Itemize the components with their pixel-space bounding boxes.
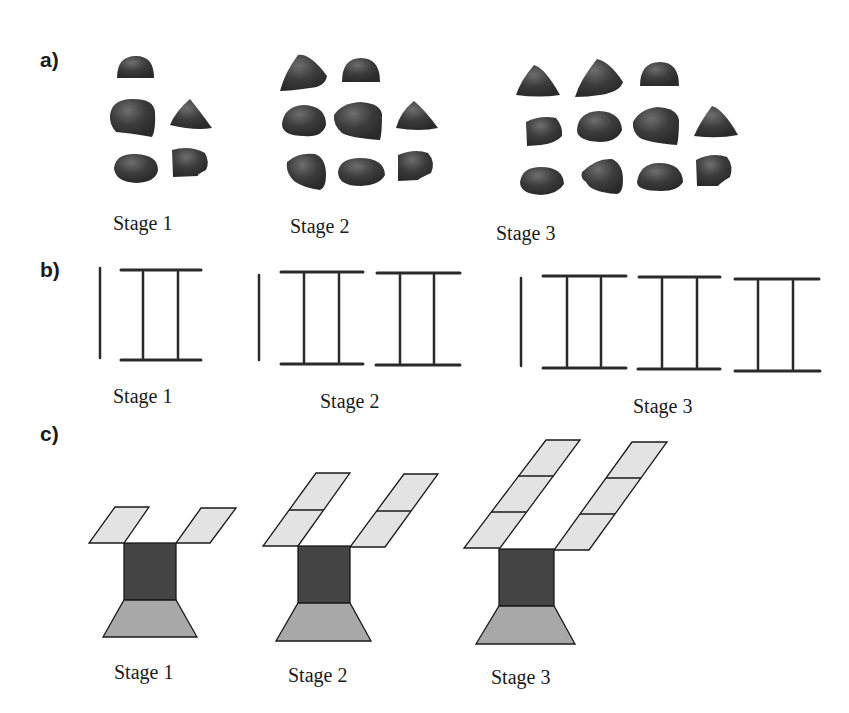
panel-b-stage-2-label: Stage 2 xyxy=(320,390,379,413)
left-arm xyxy=(464,440,580,548)
panel-a-stage-3-label: Stage 3 xyxy=(496,222,555,245)
pattern-figure xyxy=(0,0,849,713)
dark-box xyxy=(124,543,176,600)
stone xyxy=(398,151,433,181)
stage-3-stones xyxy=(516,59,738,195)
panel-a-stage-1-label: Stage 1 xyxy=(113,212,172,235)
panel-b-stage-1-label: Stage 1 xyxy=(113,385,172,408)
stone xyxy=(282,105,326,136)
panel-b-label: b) xyxy=(40,258,60,282)
stone xyxy=(516,65,560,97)
panel-c-label: c) xyxy=(40,422,59,446)
panel-b-frames xyxy=(100,268,820,371)
panel-c-stage-3-label: Stage 3 xyxy=(491,666,550,689)
right-arm xyxy=(554,442,667,550)
stone xyxy=(342,58,380,82)
stone xyxy=(172,148,208,177)
stage-2-stones xyxy=(280,55,438,190)
stone xyxy=(110,99,155,137)
panel-c-stage-1-label: Stage 1 xyxy=(114,661,173,684)
base-trapezoid xyxy=(276,603,371,641)
stone xyxy=(577,111,622,142)
stone xyxy=(637,163,683,191)
stage-2-stand xyxy=(263,473,438,641)
panel-a-stones xyxy=(110,55,738,195)
stone xyxy=(170,99,212,129)
dark-box xyxy=(499,549,554,606)
stone xyxy=(280,55,327,91)
stage-3-frames xyxy=(521,276,820,371)
stone xyxy=(633,107,679,145)
base-trapezoid xyxy=(103,600,197,637)
stone xyxy=(694,106,738,137)
stone xyxy=(640,62,679,86)
panel-c-stands xyxy=(89,440,667,644)
stone xyxy=(582,159,624,194)
stage-2-frames xyxy=(259,272,460,365)
dark-box xyxy=(298,546,350,603)
stage-1-stones xyxy=(110,56,212,183)
stone xyxy=(526,117,562,146)
stone xyxy=(520,167,564,195)
stone xyxy=(396,101,438,130)
stone xyxy=(117,56,154,78)
base-trapezoid xyxy=(476,606,575,644)
stage-3-stand xyxy=(464,440,667,644)
panel-c-stage-2-label: Stage 2 xyxy=(288,664,347,687)
left-arm-segment xyxy=(89,507,149,543)
stone xyxy=(696,155,731,186)
stage-1-frames xyxy=(100,268,201,360)
panel-b-stage-3-label: Stage 3 xyxy=(633,395,692,418)
stone xyxy=(114,154,158,183)
stone xyxy=(338,158,385,186)
panel-a-stage-2-label: Stage 2 xyxy=(290,215,349,238)
stone xyxy=(334,102,382,140)
stage-1-stand xyxy=(89,507,236,637)
stone xyxy=(287,154,326,190)
panel-a-label: a) xyxy=(40,48,59,72)
stone xyxy=(575,59,623,97)
right-arm-segment xyxy=(176,508,236,543)
